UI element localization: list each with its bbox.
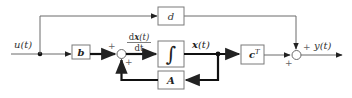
integrator-symbol: ∫ bbox=[166, 42, 176, 66]
block-diagram: u(t) d b + + dx(t) dt ∫ x(t) bbox=[0, 0, 352, 98]
summer-left-sign-top: + bbox=[108, 41, 116, 51]
input-signal: u(t) bbox=[11, 39, 71, 56]
feedback-wire bbox=[186, 54, 218, 80]
d-block-label: d bbox=[168, 11, 174, 22]
cT-block: cT bbox=[241, 45, 264, 64]
integrator-block: ∫ bbox=[158, 41, 184, 67]
svg-text:dx(t): dx(t) bbox=[129, 32, 150, 42]
output-label: y(t) bbox=[313, 40, 332, 51]
summer-left-sign-bottom: + bbox=[125, 57, 133, 67]
deriv-t: (t) bbox=[139, 32, 149, 42]
A-block: A bbox=[158, 71, 184, 89]
A-block-label: A bbox=[166, 75, 175, 86]
derivative-label: dx(t) dt bbox=[127, 32, 151, 53]
deriv-denominator: dt bbox=[135, 43, 144, 53]
b-block-label: b bbox=[78, 47, 85, 58]
state-label: x(t) bbox=[191, 39, 210, 50]
d-block: d bbox=[158, 7, 184, 25]
summer-right-sign-top: + bbox=[303, 42, 311, 52]
input-label: u(t) bbox=[14, 39, 32, 50]
summer-right-sign-bottom: + bbox=[285, 58, 293, 68]
b-block: b bbox=[72, 45, 90, 59]
